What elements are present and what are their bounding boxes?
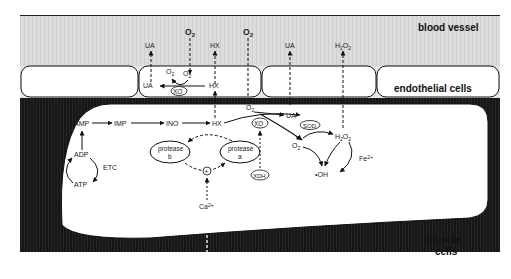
- protease-a-line1: protease: [228, 145, 254, 153]
- sod-label: SOD: [303, 123, 317, 129]
- xo-endothelial: XO: [173, 88, 182, 95]
- blood-vessel-label: blood vessel: [418, 22, 479, 33]
- ua-endothelial: UA: [143, 82, 153, 89]
- xo-muscle: XO: [254, 120, 263, 127]
- hx-endothelial: HX: [209, 82, 219, 89]
- protease-a-line2: a: [238, 153, 242, 160]
- protease-b-line2: b: [168, 153, 172, 160]
- blood-vessel-region: blood vessel: [20, 15, 500, 70]
- ca-extracellular: Ca2+: [198, 260, 214, 269]
- amp-label: AMP: [74, 120, 90, 127]
- endothelial-cell-3: [262, 66, 376, 97]
- ischemia-reperfusion-diagram: blood vessel endothelial cells muscle ce…: [0, 0, 511, 279]
- muscle-label-line2: cells: [435, 246, 458, 257]
- hx-muscle-label: HX: [212, 120, 222, 127]
- atp-label: ATP: [74, 181, 87, 188]
- plus-sign: +: [205, 168, 209, 175]
- ua-vessel-left: UA: [145, 42, 155, 49]
- endothelial-cell-1: [21, 66, 138, 97]
- muscle-label-line1: muscle: [426, 234, 461, 245]
- ua-vessel-right: UA: [285, 42, 295, 49]
- xdh-label: XDH: [253, 173, 266, 179]
- ino-label: INO: [166, 120, 179, 127]
- hydroxyl-radical: •OH: [315, 171, 328, 178]
- protease-b-line1: protease: [158, 145, 184, 153]
- hx-vessel: HX: [210, 42, 220, 49]
- etc-label: ETC: [103, 164, 117, 171]
- endothelial-cell-2: [139, 66, 261, 97]
- endothelial-cells-label: endothelial cells: [394, 83, 472, 94]
- superoxide-dot: •: [296, 134, 298, 140]
- ua-muscle: UA: [286, 112, 296, 119]
- adp-label: ADP: [74, 151, 89, 158]
- imp-label: IMP: [114, 120, 127, 127]
- endothelial-layer: endothelial cells: [20, 66, 500, 98]
